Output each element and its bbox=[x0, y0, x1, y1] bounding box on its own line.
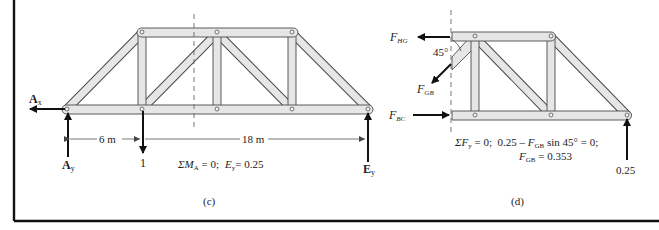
member-vertical-1 bbox=[138, 33, 146, 109]
pin-d-top-2 bbox=[549, 34, 553, 38]
caption-c: (c) bbox=[203, 195, 216, 208]
label-unit-load: 1 bbox=[140, 156, 146, 170]
member-HG-top-chord bbox=[452, 32, 556, 41]
label-F-HG: FHG bbox=[389, 30, 407, 45]
label-Ey: Ey bbox=[363, 162, 375, 177]
member-vertical-3 bbox=[288, 33, 296, 109]
panel-d: FHG 45° FGB FBC 0.25 ΣFy = 0; 0.25 – FGB… bbox=[388, 10, 636, 208]
pin-bottom-1 bbox=[140, 107, 144, 111]
label-Ay: Ay bbox=[62, 158, 75, 173]
truss-c-members bbox=[62, 28, 373, 114]
pin-bottom-2 bbox=[215, 107, 219, 111]
pin-A bbox=[65, 107, 69, 111]
pin-E bbox=[366, 107, 370, 111]
label-F-GB: FGB bbox=[416, 82, 434, 97]
equation-moment-A: ΣMA = 0;Ey= 0.25 bbox=[177, 158, 264, 172]
panel-c: Ax Ay 1 6 m 18 m Ey ΣMA = 0;Ey= 0.25 (c) bbox=[29, 14, 375, 208]
label-angle-45: 45° bbox=[433, 46, 448, 58]
pin-bottom-3 bbox=[290, 107, 294, 111]
pin-top-3 bbox=[290, 30, 294, 34]
pin-d-bottom-1 bbox=[473, 113, 477, 117]
dim-18m: 18 m bbox=[242, 133, 265, 145]
pin-d-E bbox=[625, 113, 629, 117]
member-d-vertical-1 bbox=[471, 37, 479, 115]
equation-sum-Fy: ΣFy = 0; 0.25 – FGB sin 45° = 0; bbox=[454, 136, 598, 150]
pin-d-top-1 bbox=[473, 34, 477, 38]
truss-d-members bbox=[452, 32, 632, 120]
pin-top-2 bbox=[215, 30, 219, 34]
equation-F-GB-result: FGB = 0.353 bbox=[518, 150, 572, 164]
member-vertical-2 bbox=[213, 33, 221, 109]
member-d-vertical-2 bbox=[547, 37, 555, 115]
label-F-BC: FBC bbox=[388, 108, 406, 123]
arrow-F-GB bbox=[432, 64, 451, 83]
pin-top-1 bbox=[140, 30, 144, 34]
label-Ax: Ax bbox=[29, 92, 42, 107]
pin-d-bottom-2 bbox=[549, 113, 553, 117]
dim-6m: 6 m bbox=[99, 133, 116, 145]
truss-figure: Ax Ay 1 6 m 18 m Ey ΣMA = 0;Ey= 0.25 (c) bbox=[0, 0, 659, 230]
caption-d: (d) bbox=[511, 195, 524, 208]
member-BC-bottom-chord bbox=[452, 111, 632, 120]
label-reaction-0-25: 0.25 bbox=[616, 164, 636, 176]
